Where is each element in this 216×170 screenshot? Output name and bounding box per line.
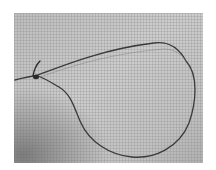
shadow-area (14, 13, 203, 163)
wire-loop-photo (14, 13, 203, 163)
wire-knot (33, 75, 39, 79)
